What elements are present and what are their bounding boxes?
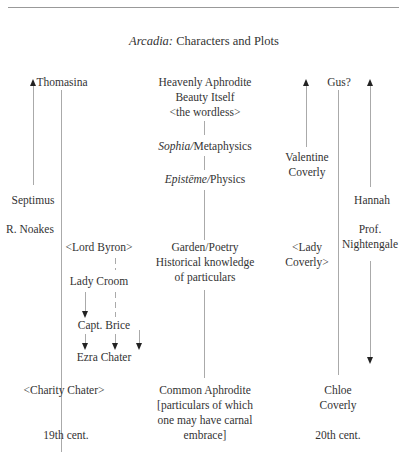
heavenly-line-3: <the wordless> <box>159 105 252 120</box>
node-noakes: R. Noakes <box>6 222 54 237</box>
croom-to-brice-arrow <box>85 292 86 312</box>
node-garden: Garden/Poetry Historical knowledge of pa… <box>156 240 255 285</box>
title-rest: Characters and Plots <box>173 34 279 48</box>
garden-line-1: Garden/Poetry <box>156 240 255 255</box>
footer-19th: 19th cent. <box>43 428 88 443</box>
node-thomasina: Thomasina <box>36 75 87 90</box>
sophia-italic: Sophia <box>158 140 190 152</box>
brice-arrow-1 <box>85 334 86 344</box>
brice-arrow-3 <box>139 330 140 344</box>
center-line-1 <box>204 121 205 135</box>
chloe-line-1: Chloe <box>319 383 356 398</box>
gus-line <box>338 90 339 375</box>
node-episteme: Epistēme/Physics <box>165 172 246 187</box>
center-line-4 <box>204 290 205 378</box>
septimus-arrow-up <box>33 85 34 185</box>
header-rule <box>8 7 399 8</box>
node-ezra-chater: Ezra Chater <box>77 350 132 365</box>
common-line-4: embrace] <box>157 428 253 443</box>
chloe-line-2: Coverly <box>319 398 356 413</box>
node-gus: Gus? <box>327 75 351 90</box>
node-charity-chater: <Charity Chater> <box>24 383 105 398</box>
lady-coverly-line-2: Coverly> <box>285 255 329 270</box>
nightengale-arrow-down <box>370 261 371 358</box>
center-line-2 <box>204 156 205 170</box>
croom-dash <box>115 292 116 317</box>
common-line-1: Common Aphrodite <box>157 383 253 398</box>
center-line-3 <box>204 190 205 240</box>
diagram-title: Arcadia: Characters and Plots <box>129 34 279 49</box>
brice-arrow-2 <box>115 334 116 344</box>
nightengale-line-1: Prof. <box>342 222 398 237</box>
title-italic: Arcadia: <box>129 34 173 48</box>
node-hannah: Hannah <box>354 193 390 208</box>
node-lord-byron: <Lord Byron> <box>66 240 133 255</box>
valentine-line-2: Coverly <box>285 165 328 180</box>
heavenly-line-1: Heavenly Aphrodite <box>159 75 252 90</box>
node-chloe: Chloe Coverly <box>319 383 356 413</box>
hannah-arrow-up <box>370 85 371 187</box>
heavenly-line-2: Beauty Itself <box>159 90 252 105</box>
lady-coverly-line-1: <Lady <box>285 240 329 255</box>
episteme-italic: Epistēme <box>165 173 207 185</box>
valentine-line-1: Valentine <box>285 150 328 165</box>
episteme-rest: Physics <box>210 173 245 185</box>
nightengale-line-2: Nightengale <box>342 237 398 252</box>
common-line-2: [particulars of which <box>157 398 253 413</box>
garden-line-3: of particulars <box>156 270 255 285</box>
node-lady-croom: Lady Croom <box>70 274 128 289</box>
node-lady-coverly: <Lady Coverly> <box>285 240 329 270</box>
valentine-arrow-up <box>306 85 307 147</box>
node-capt-brice: Capt. Brice <box>78 318 130 333</box>
sophia-rest: Metaphysics <box>194 140 252 152</box>
node-common-aphrodite: Common Aphrodite [particulars of which o… <box>157 383 253 443</box>
garden-line-2: Historical knowledge <box>156 255 255 270</box>
common-line-3: one may have carnal <box>157 413 253 428</box>
node-valentine: Valentine Coverly <box>285 150 328 180</box>
byron-dash <box>115 258 116 270</box>
node-septimus: Septimus <box>12 193 55 208</box>
node-heavenly: Heavenly Aphrodite Beauty Itself <the wo… <box>159 75 252 120</box>
node-nightengale: Prof. Nightengale <box>342 222 398 252</box>
footer-20th: 20th cent. <box>315 428 360 443</box>
node-sophia: Sophia/Metaphysics <box>158 139 251 154</box>
